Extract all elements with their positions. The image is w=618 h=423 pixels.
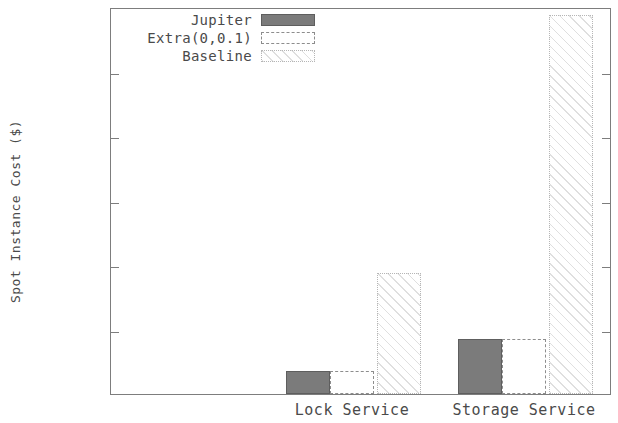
y-axis-tick-mark xyxy=(111,138,119,139)
legend-swatch-jupiter xyxy=(261,14,315,26)
legend-item-extra: Extra(0,0.1) xyxy=(145,29,315,46)
chart-legend: JupiterExtra(0,0.1)Baseline xyxy=(145,11,315,65)
bar-baseline-1 xyxy=(549,15,593,394)
bar-jupiter-0 xyxy=(286,371,330,394)
y-axis-tick-mark xyxy=(111,267,119,268)
bar-chart-figure: Spot Instance Cost ($) 020406080100120 L… xyxy=(0,0,618,423)
y-axis-tick-mark-right xyxy=(602,74,610,75)
y-axis-title: Spot Instance Cost ($) xyxy=(0,0,30,423)
x-axis-tick-label: Storage Service xyxy=(424,401,618,419)
y-axis-tick-mark-right xyxy=(602,332,610,333)
legend-item-jupiter: Jupiter xyxy=(145,11,315,28)
y-axis-tick-mark xyxy=(111,203,119,204)
y-axis-tick-mark xyxy=(111,332,119,333)
plot-area xyxy=(110,8,611,395)
y-axis-tick-mark-right xyxy=(602,203,610,204)
legend-swatch-baseline xyxy=(261,50,315,62)
bar-baseline-0 xyxy=(377,273,421,394)
bar-jupiter-1 xyxy=(458,339,502,394)
y-axis-tick-mark xyxy=(111,74,119,75)
y-axis-tick-mark-right xyxy=(602,138,610,139)
legend-label: Baseline xyxy=(182,48,252,64)
x-axis-tick-label: Lock Service xyxy=(252,401,452,419)
bar-extra-1 xyxy=(502,339,546,394)
bar-extra-0 xyxy=(330,371,374,394)
legend-swatch-extra xyxy=(261,32,315,44)
legend-label: Jupiter xyxy=(191,12,252,28)
y-axis-tick-mark-right xyxy=(602,267,610,268)
legend-label: Extra(0,0.1) xyxy=(147,30,252,46)
legend-item-baseline: Baseline xyxy=(145,47,315,64)
